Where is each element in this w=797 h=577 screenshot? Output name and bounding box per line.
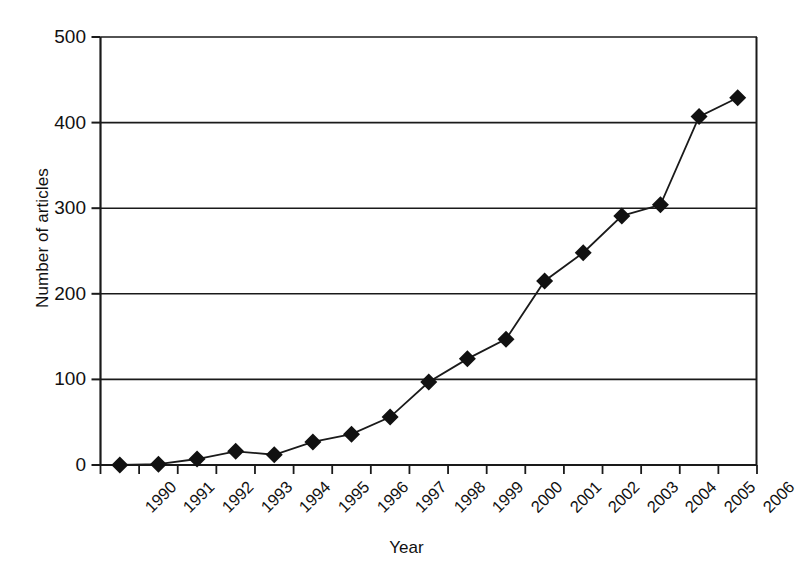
x-axis-tick-label: 1993 — [257, 478, 295, 516]
x-axis-tick-label: 1992 — [219, 478, 257, 516]
x-axis-tick-label: 2000 — [528, 478, 566, 516]
x-axis-tick-label: 1998 — [451, 478, 489, 516]
x-axis-tick-label: 1997 — [412, 478, 450, 516]
x-axis-tick-label: 2002 — [605, 478, 643, 516]
x-axis-tick-label: 2003 — [644, 478, 682, 516]
x-axis-tick-label: 1990 — [142, 478, 180, 516]
x-axis-title: Year — [0, 538, 777, 558]
x-axis-tick-label: 1991 — [180, 478, 218, 516]
x-axis-tick-label: 1994 — [296, 478, 334, 516]
x-axis-tick-label: 2005 — [721, 478, 759, 516]
x-axis-tick-label: 2001 — [566, 478, 604, 516]
x-axis-tick-label: 1995 — [335, 478, 373, 516]
x-axis-tick-label: 2004 — [682, 478, 720, 516]
x-axis-tick-label: 1996 — [373, 478, 411, 516]
x-axis-tick-label: 2006 — [759, 478, 797, 516]
x-axis-tick-label: 1999 — [489, 478, 527, 516]
x-axis-title-text: Year — [389, 538, 423, 558]
